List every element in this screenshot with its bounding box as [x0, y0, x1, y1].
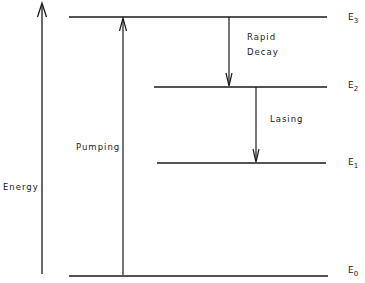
svg-text:E0: E0 [348, 265, 358, 278]
svg-text:E3: E3 [348, 12, 358, 25]
svg-text:E1: E1 [348, 157, 358, 170]
lasing-label: Lasing [270, 114, 304, 124]
lasing-arrow [253, 87, 259, 162]
level-e1-label: E1 [348, 157, 358, 170]
rapid-decay-arrow [226, 17, 232, 86]
svg-text:E2: E2 [348, 80, 358, 93]
pumping-label: Pumping [76, 142, 120, 152]
energy-axis [38, 3, 47, 274]
level-e3-label: E3 [348, 12, 358, 25]
pumping-arrow [120, 18, 127, 275]
rapid-decay-label-line1: Rapid [247, 32, 276, 42]
rapid-decay-label-line2: Decay [247, 47, 279, 57]
energy-axis-label: Energy [3, 182, 39, 192]
level-e2-label: E2 [348, 80, 358, 93]
energy-level-diagram: Energy E3 E2 E1 E0 Pumping Rapid Decay L… [0, 0, 365, 283]
level-e0-label: E0 [348, 265, 358, 278]
